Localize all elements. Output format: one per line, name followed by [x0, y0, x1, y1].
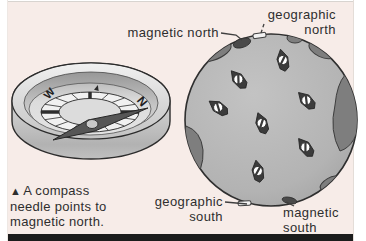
compass-needle-pivot	[86, 120, 98, 129]
label-geographic-south: geographic south	[155, 194, 223, 224]
label-geographic-north-line1: geographic	[268, 7, 336, 22]
label-magnetic-north-text: magnetic north	[127, 25, 219, 40]
textbook-figure-page: NW m	[0, 0, 366, 241]
figure-caption: ▲A compass needle points to magnetic nor…	[10, 183, 107, 229]
label-geographic-south-line1: geographic	[155, 194, 223, 209]
compass-illustration: NW	[12, 63, 170, 159]
globe-illustration	[183, 32, 362, 206]
label-magnetic-south: magnetic south	[283, 205, 339, 235]
leader-magnetic-north	[221, 33, 242, 40]
label-magnetic-north: magnetic north	[127, 25, 219, 40]
caption-line1: ▲A compass	[10, 183, 107, 199]
caption-line2: needle points to	[10, 199, 107, 214]
label-geographic-south-line2: south	[155, 209, 223, 224]
leader-geographic-north	[261, 24, 264, 33]
label-geographic-north: geographic north	[268, 7, 336, 37]
caption-line3: magnetic north.	[10, 214, 107, 229]
label-magnetic-south-line2: south	[283, 220, 339, 235]
label-magnetic-south-line1: magnetic	[283, 205, 339, 220]
caption-triangle-marker: ▲	[10, 185, 21, 197]
label-geographic-north-line2: north	[268, 22, 336, 37]
caption-line1-text: A compass	[23, 183, 89, 198]
